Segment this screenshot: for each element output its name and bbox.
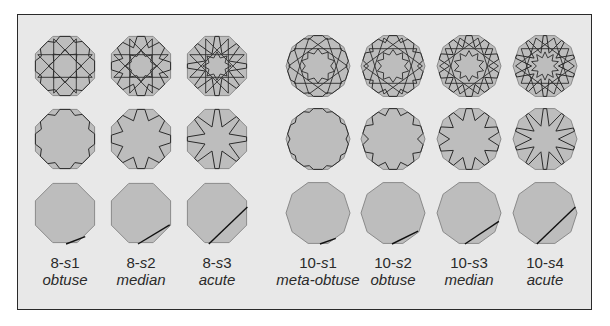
motif-8-s2-full-pattern: [111, 36, 170, 95]
motif-10-s4-full-pattern: [513, 36, 577, 97]
motif-10-s3-full-pattern: [437, 36, 501, 97]
polygon-tile: [111, 183, 170, 242]
motif-column-10-s4: [513, 36, 577, 244]
motif-10-s2-star-outline: [361, 109, 425, 170]
motif-10-s2-full-pattern: [361, 36, 425, 97]
motif-8-s3-star-outline: [187, 109, 246, 168]
motif-8-s1-full-pattern: [35, 36, 94, 95]
motif-10-s4-star-outline: [513, 109, 577, 170]
motif-column-10-s1: [286, 36, 350, 244]
motif-8-s1-star-outline: [35, 109, 94, 168]
motif-8-s3-construction-line: [187, 183, 247, 244]
polygon-tile: [35, 183, 94, 242]
variant-code: 10-s2: [374, 254, 412, 271]
label-8-s3: 8-s3acute: [167, 254, 267, 288]
variant-name: acute: [495, 271, 595, 288]
variant-code: 10-s3: [450, 254, 488, 271]
motif-10-s3-construction-line: [437, 183, 501, 244]
motif-10-s2-construction-line: [361, 183, 425, 244]
motif-8-s1-construction-line: [35, 183, 94, 244]
motif-column-10-s2: [361, 36, 425, 244]
label-10-s4: 10-s4acute: [495, 254, 595, 288]
polygon-tile: [513, 183, 577, 244]
polygon-tile: [286, 183, 350, 244]
variant-code: 8-s1: [50, 254, 79, 271]
variant-code: 8-s3: [202, 254, 231, 271]
motif-column-8-s3: [187, 36, 247, 244]
motif-column-8-s2: [111, 36, 170, 244]
motif-column-10-s3: [437, 36, 501, 244]
variant-code: 8-s2: [126, 254, 155, 271]
motif-10-s1-construction-line: [286, 183, 350, 244]
variant-name: acute: [167, 271, 267, 288]
polygon-tile: [437, 183, 501, 244]
polygon-tile: [361, 183, 425, 244]
motif-column-8-s1: [35, 36, 94, 244]
motif-10-s3-star-outline: [437, 109, 501, 170]
polygon-tile: [286, 109, 350, 170]
polygon-tile: [361, 109, 425, 170]
polygon-tile: [513, 109, 577, 170]
variant-code: 10-s4: [526, 254, 564, 271]
motif-10-s4-construction-line: [513, 183, 577, 244]
motif-8-s3-full-pattern: [187, 36, 246, 95]
variant-code: 10-s1: [299, 254, 337, 271]
polygon-tile: [187, 183, 246, 242]
motif-8-s2-star-outline: [111, 109, 170, 168]
motif-10-s1-full-pattern: [286, 36, 350, 97]
motif-8-s2-construction-line: [111, 183, 170, 244]
polygon-tile: [437, 109, 501, 170]
motif-10-s1-star-outline: [286, 109, 350, 170]
